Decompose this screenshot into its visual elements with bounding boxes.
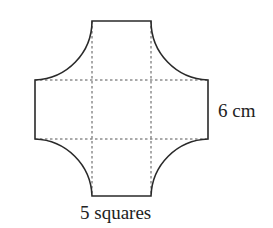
dashed-grid: [35, 21, 208, 196]
figure-outline: [35, 21, 208, 196]
bottom-caption-label: 5 squares: [80, 202, 151, 223]
cross-figure-diagram: 6 cm 5 squares: [0, 0, 273, 228]
side-length-label: 6 cm: [218, 100, 256, 121]
